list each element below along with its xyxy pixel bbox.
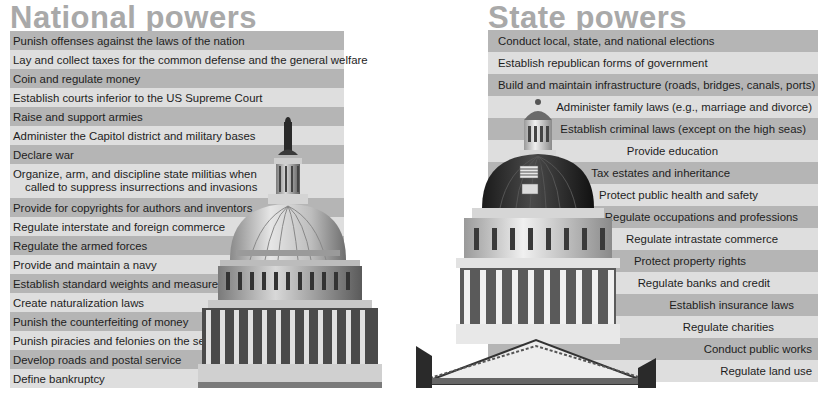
list-item-label: Develop roads and postal service [13,354,181,366]
list-item-label: Lay and collect taxes for the common def… [13,54,368,66]
national-powers-title: National powers [10,2,257,33]
list-item-label: Define bankruptcy [13,373,105,385]
list-item-label: Regulate land use [720,365,812,377]
list-item-label: Raise and support armies [13,111,143,123]
list-item: Establish republican forms of government [488,52,818,74]
list-item: Coin and regulate money [10,69,344,88]
list-item-label: Declare war [13,149,74,161]
list-item-label: Establish republican forms of government [498,57,708,69]
state-powers-title: State powers [488,2,687,33]
list-item-label: Conduct local, state, and national elect… [498,35,715,47]
list-item-label: Punish the counterfeiting of money [13,316,188,328]
list-item-label: Provide and maintain a navy [13,259,157,271]
state-capitol-dome-image [416,96,656,388]
list-item-label: Regulate the armed forces [13,240,147,252]
list-item-label: Punish piracies and felonies on the seas [13,335,217,347]
us-capitol-dome-image [190,110,390,390]
list-item-label: Coin and regulate money [13,73,140,85]
list-item: Conduct local, state, and national elect… [488,30,818,52]
list-item-label: Regulate charities [683,321,774,333]
list-item-label: Create naturalization laws [13,297,144,309]
list-item-label: Establish insurance laws [669,299,794,311]
list-item-label: Build and maintain infrastructure (roads… [498,79,815,91]
list-item: Lay and collect taxes for the common def… [10,50,344,69]
list-item-label: Establish courts inferior to the US Supr… [13,92,262,104]
list-item: Punish offenses against the laws of the … [10,31,344,50]
list-item: Build and maintain infrastructure (roads… [488,74,818,96]
list-item-label: Punish offenses against the laws of the … [13,35,245,47]
list-item: Establish courts inferior to the US Supr… [10,88,344,107]
list-item-label: Regulate banks and credit [638,277,770,289]
list-item-label: Conduct public works [704,343,812,355]
